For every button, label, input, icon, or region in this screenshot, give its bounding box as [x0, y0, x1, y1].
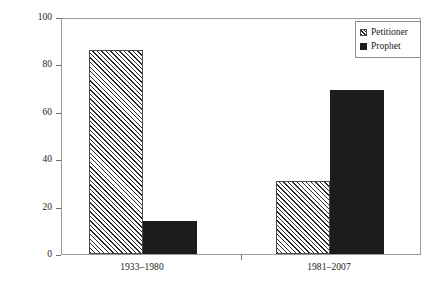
y-axis-tick: 0 [0, 255, 61, 256]
y-axis-tick-label: 60 [43, 106, 53, 119]
legend-label: Petitioner [371, 26, 408, 38]
x-axis-tick-mark [241, 255, 242, 260]
bar-petitioner-0 [89, 50, 143, 254]
y-axis-tick-mark [56, 255, 61, 256]
x-axis-tick-label: 1933–1980 [120, 261, 164, 274]
y-axis-tick-label: 0 [47, 248, 52, 261]
legend-item-prophet: Prophet [360, 39, 416, 53]
y-axis-tick-label: 100 [38, 11, 52, 24]
x-axis-tick-label: 1981–2007 [307, 261, 351, 274]
y-axis-tick: 80 [0, 65, 61, 66]
bar-prophet-1 [330, 90, 384, 254]
legend-item-petitioner: Petitioner [360, 25, 416, 39]
bar-petitioner-1 [276, 181, 330, 254]
y-axis-tick-label: 40 [43, 153, 53, 166]
solid-square-swatch [360, 43, 367, 50]
y-axis-tick: 100 [0, 18, 61, 19]
y-axis-tick-label: 20 [43, 201, 53, 214]
y-axis-tick: 20 [0, 208, 61, 209]
legend-label: Prophet [371, 40, 401, 52]
legend: Petitioner Prophet [355, 21, 421, 58]
y-axis-tick-label: 80 [43, 58, 53, 71]
bar-prophet-0 [143, 221, 197, 254]
y-axis-tick: 60 [0, 113, 61, 114]
bar-chart: Percentage of total linkages 02040608010… [0, 0, 433, 286]
hatched-square-swatch [360, 29, 367, 36]
y-axis-tick: 40 [0, 160, 61, 161]
